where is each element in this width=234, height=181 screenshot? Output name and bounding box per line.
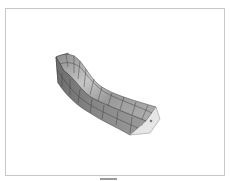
figure-frame [5,8,225,176]
scroll-indicator [100,178,117,180]
beam-mesh-render [6,9,226,177]
